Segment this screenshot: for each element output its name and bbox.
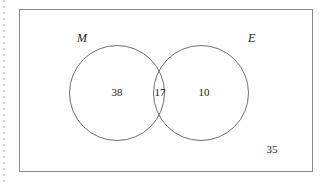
page-margin-rule bbox=[3, 0, 5, 186]
venn-diagram-canvas: M E 38 17 10 35 bbox=[0, 0, 332, 186]
region-count-m-only: 38 bbox=[107, 87, 127, 98]
region-count-intersection: 17 bbox=[150, 87, 170, 98]
region-count-e-only: 10 bbox=[194, 87, 214, 98]
set-label-m: M bbox=[77, 32, 87, 44]
set-label-e: E bbox=[248, 32, 255, 44]
region-count-outside: 35 bbox=[262, 144, 282, 155]
